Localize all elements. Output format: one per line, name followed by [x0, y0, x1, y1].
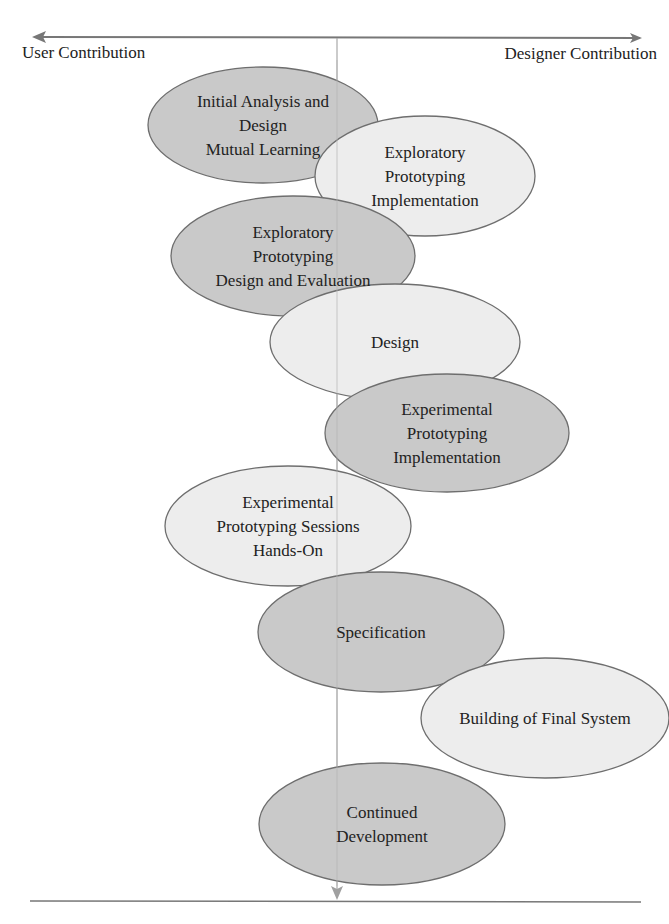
contribution-axis-arrow	[36, 37, 640, 38]
user-contribution-label: User Contribution	[22, 43, 145, 63]
stage-ellipse	[259, 763, 505, 885]
stage-label: ExperimentalPrototypingImplementation	[393, 400, 501, 467]
stage-ellipses	[148, 67, 669, 885]
designer-contribution-label: Designer Contribution	[504, 44, 657, 64]
stage-label: Building of Final System	[459, 709, 630, 728]
stage-label: Specification	[336, 623, 426, 642]
participatory-design-diagram: Initial Analysis andDesignMutual Learnin…	[0, 0, 669, 924]
baseline	[30, 901, 641, 902]
stage-label: Design	[371, 333, 420, 352]
stage-label: ExploratoryPrototypingImplementation	[371, 143, 479, 210]
diagram-canvas: Initial Analysis andDesignMutual Learnin…	[0, 0, 669, 924]
